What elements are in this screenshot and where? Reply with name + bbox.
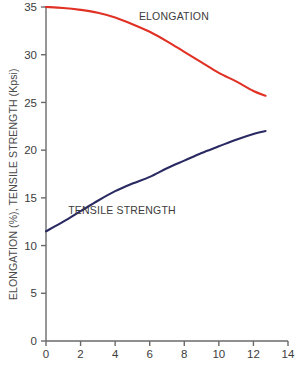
x-axis-tick-labels: 02468101214 (43, 348, 295, 360)
x-tick-label: 14 (282, 348, 295, 360)
series-annotations: ELONGATIONTENSILE STRENGTH (68, 10, 209, 216)
y-tick-label: 25 (24, 97, 37, 109)
x-tick-label: 10 (212, 348, 225, 360)
y-tick-label: 5 (31, 287, 37, 299)
x-tick-label: 8 (181, 348, 187, 360)
y-tick-label: 35 (24, 1, 37, 13)
y-axis-tick-labels: 05101520253035 (24, 1, 37, 347)
y-tick-label: 20 (24, 144, 37, 156)
y-tick-label: 10 (24, 240, 37, 252)
x-axis-ticks (46, 341, 288, 346)
x-tick-label: 6 (147, 348, 153, 360)
series-label-elongation: ELONGATION (139, 10, 209, 22)
y-tick-label: 15 (24, 192, 37, 204)
series-label-tensile-strength: TENSILE STRENGTH (68, 204, 176, 216)
line-chart-plot: 05101520253035 02468101214 ELONGATIONTEN… (0, 0, 297, 367)
chart-container: 05101520253035 02468101214 ELONGATIONTEN… (0, 0, 297, 367)
x-tick-label: 4 (112, 348, 119, 360)
y-tick-label: 30 (24, 49, 37, 61)
y-axis-label: ELONGATION (%), TENSILE STRENGTH (Kpsi) (7, 68, 19, 300)
x-tick-label: 0 (43, 348, 49, 360)
x-tick-label: 2 (77, 348, 83, 360)
series-line-tensile-strength (46, 131, 266, 231)
x-tick-label: 12 (247, 348, 260, 360)
y-tick-label: 0 (31, 335, 37, 347)
y-axis-ticks (41, 7, 46, 341)
series-lines (46, 7, 266, 231)
